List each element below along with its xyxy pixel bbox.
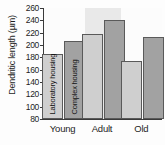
y-tick-label-120: 120	[26, 90, 39, 99]
y-tick-label-180: 180	[26, 53, 39, 62]
y-tick-240	[40, 20, 44, 21]
y-axis-title: Dendritic length (µm)	[7, 0, 17, 110]
x-category-label-adult: Adult	[82, 124, 121, 134]
y-tick-80	[40, 119, 44, 120]
bar-adult-laboratory-housing	[82, 34, 103, 119]
x-category-label-old: Old	[122, 124, 161, 134]
y-tick-label-200: 200	[26, 41, 39, 50]
series-label-laboratory-housing: Laboratory housing	[49, 53, 57, 114]
x-category-label-young: Young	[43, 124, 82, 134]
y-tick-label-220: 220	[26, 28, 39, 37]
y-tick-label-140: 140	[26, 78, 39, 87]
y-tick-220	[40, 33, 44, 34]
dendritic-length-bar-chart: Dendritic length (µm) 801001201401601802…	[0, 0, 165, 145]
y-tick-label-80: 80	[30, 115, 39, 124]
y-tick-label-260: 260	[26, 4, 39, 13]
y-tick-label-160: 160	[26, 65, 39, 74]
plot-area: 80100120140160180200220240260Laboratory …	[43, 8, 162, 120]
y-tick-260	[40, 8, 44, 9]
bar-old-laboratory-housing	[121, 61, 142, 119]
bar-young-laboratory-housing: Laboratory housing	[42, 54, 63, 119]
y-tick-label-100: 100	[26, 102, 39, 111]
y-tick-label-240: 240	[26, 16, 39, 25]
bar-old-complex-housing	[143, 37, 164, 119]
series-label-complex-housing: Complex housing	[71, 59, 79, 114]
y-tick-200	[40, 45, 44, 46]
